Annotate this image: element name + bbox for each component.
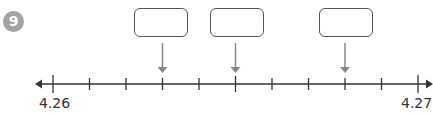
right-arrow-icon: [426, 80, 433, 89]
start-label: 4.26: [39, 95, 70, 111]
end-label: 4.27: [401, 95, 432, 111]
left-arrow-icon: [35, 80, 42, 89]
